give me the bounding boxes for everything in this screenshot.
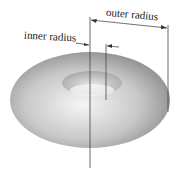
torus-diagram: outer radius inner radius <box>0 0 182 174</box>
torus-figure <box>0 0 182 174</box>
